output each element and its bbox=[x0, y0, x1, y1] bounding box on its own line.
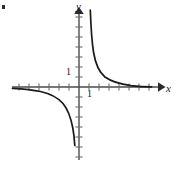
hyperbola-branch-quadrant-3 bbox=[13, 88, 75, 145]
x-axis-arrowhead bbox=[158, 82, 166, 92]
x-axis-unit-tick-label: 1 bbox=[87, 89, 92, 99]
y-axis-label: y bbox=[76, 1, 81, 12]
graph-figure: y x 1 1 bbox=[0, 0, 180, 169]
x-axis-label: x bbox=[166, 83, 171, 94]
coordinate-plot bbox=[0, 0, 180, 169]
hyperbola-branch-quadrant-1 bbox=[90, 10, 151, 87]
y-axis-unit-tick-label: 1 bbox=[66, 67, 71, 77]
